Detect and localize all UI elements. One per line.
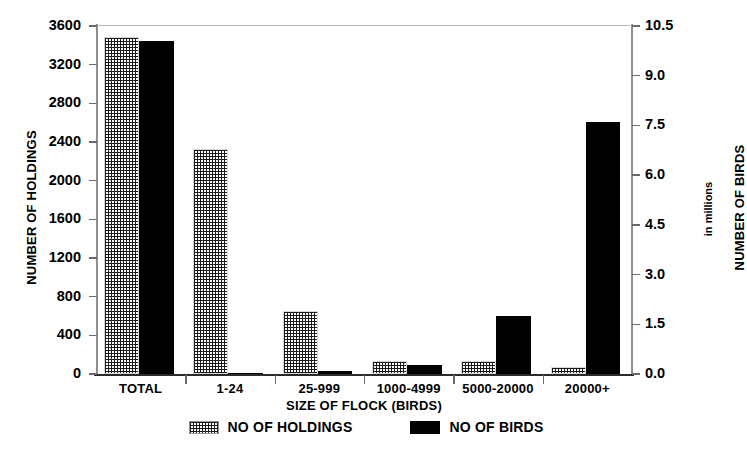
bar-holdings <box>551 367 586 374</box>
y-tick-label-right: 4.5 <box>645 217 665 232</box>
y-tick-label-left: 1200 <box>49 250 81 265</box>
y-tick-label-right: 1.5 <box>645 316 665 331</box>
y-tick-label-left: 2400 <box>49 134 81 149</box>
y-tick-right <box>632 75 640 76</box>
legend-label: NO OF HOLDINGS <box>228 419 353 435</box>
y-tick-label-right: 0.0 <box>645 366 665 381</box>
x-tick-label: TOTAL <box>96 381 185 396</box>
y-tick-label-right: 6.0 <box>645 167 665 182</box>
bar-birds <box>228 373 263 375</box>
bar-holdings <box>461 361 496 374</box>
y-axis-units-right: in millions <box>702 109 714 309</box>
y-tick-label-right: 3.0 <box>645 267 665 282</box>
bar-holdings <box>104 37 139 374</box>
y-tick-label-left: 3200 <box>49 57 81 72</box>
y-tick-label-left: 400 <box>57 327 81 342</box>
bar-birds <box>586 122 621 374</box>
bar-birds <box>139 41 174 374</box>
y-tick-label-right: 7.5 <box>645 117 665 132</box>
y-tick-right <box>632 373 640 374</box>
y-tick-right <box>632 125 640 126</box>
x-tick-label: 5000-20000 <box>453 381 542 396</box>
y-tick-label-left: 3600 <box>49 18 81 33</box>
y-tick-label-left: 2000 <box>49 173 81 188</box>
y-axis-title-right: NUMBER OF BIRDS <box>732 93 747 323</box>
solid-black-swatch <box>410 421 440 434</box>
bar-holdings <box>283 311 318 374</box>
y-tick-right <box>632 174 640 175</box>
y-tick-right <box>632 274 640 275</box>
legend-label: NO OF BIRDS <box>449 419 543 435</box>
legend-entry[interactable]: NO OF BIRDS <box>410 419 543 435</box>
x-tick-label: 1-24 <box>185 381 274 396</box>
bar-birds <box>407 365 442 374</box>
x-tick-label: 1000-4999 <box>364 381 453 396</box>
y-tick-right <box>632 324 640 325</box>
x-tick-label: 20000+ <box>543 381 632 396</box>
bar-holdings <box>372 361 407 374</box>
y-tick-label-left: 2800 <box>49 95 81 110</box>
y-tick-right <box>632 25 640 26</box>
y-axis-title-left: NUMBER OF HOLDINGS <box>24 93 39 323</box>
y-tick-right <box>632 224 640 225</box>
y-tick-label-left: 1600 <box>49 211 81 226</box>
chart-legend: NO OF HOLDINGSNO OF BIRDS <box>0 419 732 435</box>
y-tick-label-right: 9.0 <box>645 68 665 83</box>
crosshatch-swatch <box>189 421 219 434</box>
y-tick-label-left: 0 <box>73 366 81 381</box>
x-axis-title: SIZE OF FLOCK (BIRDS) <box>96 398 632 413</box>
y-tick-label-right: 10.5 <box>645 18 673 33</box>
x-tick-label: 25-999 <box>275 381 364 396</box>
bar-holdings <box>193 149 228 374</box>
legend-entry[interactable]: NO OF HOLDINGS <box>189 419 353 435</box>
y-tick-label-left: 800 <box>57 289 81 304</box>
bar-birds <box>318 371 353 374</box>
bar-birds <box>496 316 531 374</box>
plot-area <box>96 26 632 374</box>
